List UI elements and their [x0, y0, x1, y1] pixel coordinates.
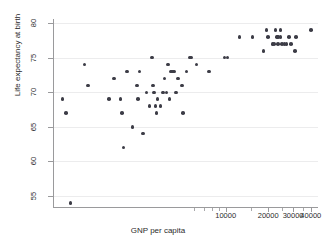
data-point	[141, 132, 145, 136]
gridline	[53, 161, 318, 162]
gridline	[53, 196, 318, 197]
x-tick-label: 40000	[300, 211, 321, 221]
data-point	[122, 146, 126, 150]
data-point	[125, 70, 129, 74]
x-axis-line	[53, 207, 318, 208]
data-point	[173, 70, 177, 74]
data-point	[83, 63, 87, 67]
data-point	[289, 42, 293, 46]
y-axis-title: Life expectancy at birth	[13, 0, 23, 110]
data-point	[163, 77, 167, 81]
data-point	[86, 84, 90, 88]
y-tick-label-text: 80	[29, 11, 39, 35]
data-point	[150, 56, 154, 60]
data-point	[274, 28, 278, 32]
data-point	[185, 70, 189, 74]
data-point	[287, 35, 291, 39]
chart-screenshot: 556065707580 10000200003000040000 Life e…	[0, 0, 329, 251]
x-minor-tick-mark	[204, 208, 205, 211]
y-tick-mark	[48, 58, 53, 59]
x-axis-title: GNP per capita	[53, 226, 263, 236]
data-point	[131, 125, 135, 129]
data-point	[285, 42, 289, 46]
data-point	[151, 84, 155, 88]
data-point	[190, 56, 194, 60]
data-point	[168, 97, 172, 101]
data-point	[120, 111, 124, 115]
x-minor-tick-mark	[251, 208, 252, 211]
data-point	[207, 70, 211, 74]
gridline	[53, 58, 318, 59]
x-minor-tick-mark	[212, 208, 213, 211]
data-point	[279, 28, 283, 32]
gridline	[53, 23, 318, 24]
y-tick-label: 65	[22, 122, 46, 132]
data-point	[265, 28, 269, 32]
data-point	[154, 104, 158, 108]
data-point	[195, 63, 199, 67]
data-point	[69, 201, 73, 205]
y-tick-label: 80	[22, 18, 46, 28]
data-point	[64, 111, 68, 115]
plot-frame	[53, 19, 318, 207]
data-point	[294, 35, 298, 39]
y-tick-label: 60	[22, 156, 46, 166]
y-tick-label-text: 55	[29, 184, 39, 208]
data-point	[279, 35, 283, 39]
data-point	[226, 56, 230, 60]
y-tick-label-text: 75	[29, 46, 39, 70]
data-point	[180, 84, 184, 88]
gridline	[53, 92, 318, 93]
gridline	[53, 127, 318, 128]
data-point	[119, 97, 123, 101]
data-point	[176, 77, 180, 81]
y-tick-mark	[48, 127, 53, 128]
data-point	[159, 104, 163, 108]
data-point	[293, 49, 297, 53]
data-point	[165, 91, 169, 95]
y-tick-mark	[48, 161, 53, 162]
data-point	[138, 70, 142, 74]
x-tick-label: 10000	[215, 211, 236, 221]
data-point	[181, 111, 185, 115]
data-point	[174, 91, 178, 95]
y-tick-mark	[48, 196, 53, 197]
data-point	[251, 35, 255, 39]
data-point	[112, 77, 116, 81]
y-tick-label: 70	[22, 87, 46, 97]
data-point	[107, 97, 111, 101]
y-tick-mark	[48, 23, 53, 24]
data-point	[266, 35, 270, 39]
y-axis-line	[53, 19, 54, 208]
y-tick-label-text: 70	[29, 80, 39, 104]
x-tick-label: 20000	[258, 211, 279, 221]
data-point	[166, 63, 170, 67]
y-tick-label-text: 65	[29, 115, 39, 139]
data-point	[135, 84, 139, 88]
data-point	[61, 97, 65, 101]
x-minor-tick-mark	[194, 208, 195, 211]
y-tick-label-text: 60	[29, 149, 39, 173]
data-point	[152, 91, 156, 95]
y-tick-mark	[48, 92, 53, 93]
data-point	[238, 35, 242, 39]
y-tick-label: 75	[22, 53, 46, 63]
data-point	[309, 28, 313, 32]
y-tick-label: 55	[22, 191, 46, 201]
data-point	[145, 91, 149, 95]
data-point	[262, 49, 266, 53]
data-point	[155, 111, 159, 115]
data-point	[136, 97, 140, 101]
data-point	[148, 104, 152, 108]
data-point	[156, 97, 160, 101]
